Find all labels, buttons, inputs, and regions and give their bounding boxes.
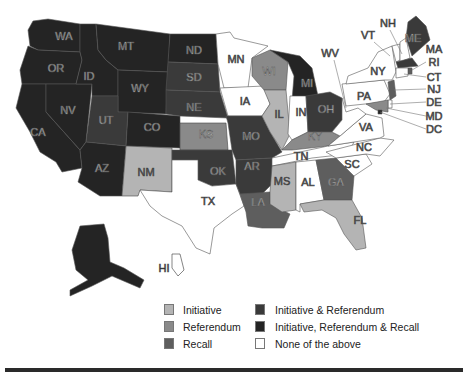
label-WY: WY <box>131 82 149 94</box>
label-AR: AR <box>244 160 259 172</box>
label-ND: ND <box>186 44 202 56</box>
label-UT: UT <box>99 114 114 126</box>
legend-label: Initiative, Referendum & Recall <box>275 321 419 333</box>
label-KY: KY <box>308 130 323 142</box>
swatch-none <box>255 338 265 349</box>
label-TX: TX <box>201 195 216 207</box>
label-HI: HI <box>159 262 170 274</box>
legend-label: Recall <box>183 338 212 350</box>
label-MT: MT <box>118 40 134 52</box>
label-LA: LA <box>251 196 265 208</box>
label-NC: NC <box>356 141 372 153</box>
label-DC: DC <box>426 123 442 135</box>
label-MS: MS <box>274 175 291 187</box>
label-MI: MI <box>301 77 313 89</box>
swatch-initiative-referendum <box>255 304 265 315</box>
label-VT: VT <box>361 29 375 41</box>
label-WV: WV <box>321 47 339 59</box>
legend-label: Referendum <box>183 321 241 333</box>
state-MS <box>270 162 296 212</box>
label-SD: SD <box>186 71 201 83</box>
label-OR: OR <box>48 62 65 74</box>
state-AK <box>70 224 144 296</box>
label-AL: AL <box>301 176 314 188</box>
label-SC: SC <box>344 158 359 170</box>
label-OH: OH <box>318 103 335 115</box>
swatch-initiative-referendum-recall <box>255 321 265 332</box>
label-DE: DE <box>426 96 441 108</box>
label-NV: NV <box>60 104 76 116</box>
label-VA: VA <box>359 121 374 133</box>
label-CT: CT <box>427 71 442 83</box>
label-CA: CA <box>30 126 46 138</box>
legend-label: Initiative <box>183 304 222 316</box>
state-HI <box>172 254 184 276</box>
label-NM: NM <box>137 166 154 178</box>
label-CO: CO <box>144 121 161 133</box>
label-RI: RI <box>429 56 440 68</box>
label-NE: NE <box>186 101 201 113</box>
label-NJ: NJ <box>427 83 440 95</box>
state-RI <box>408 68 412 74</box>
label-MN: MN <box>227 53 244 65</box>
state-CT <box>396 68 408 78</box>
label-TN: TN <box>294 150 309 162</box>
label-MA: MA <box>426 43 443 55</box>
label-NH: NH <box>380 17 396 29</box>
label-IA: IA <box>240 95 251 107</box>
label-WA: WA <box>55 30 73 42</box>
swatch-referendum <box>164 321 174 332</box>
legend-label: Initiative & Referendum <box>275 304 384 316</box>
swatch-recall <box>164 338 174 349</box>
label-IN: IN <box>296 106 307 118</box>
label-MO: MO <box>242 130 260 142</box>
bottom-rule <box>5 368 463 372</box>
label-NY: NY <box>370 65 386 77</box>
label-PA: PA <box>357 90 372 102</box>
label-FL: FL <box>354 214 367 226</box>
label-AZ: AZ <box>95 162 109 174</box>
label-ID: ID <box>84 70 95 82</box>
swatch-initiative <box>164 304 174 315</box>
label-WI: WI <box>262 65 275 77</box>
label-ME: ME <box>405 32 422 44</box>
legend-label: None of the above <box>275 338 361 350</box>
label-IL: IL <box>274 108 283 120</box>
label-KS: KS <box>199 128 214 140</box>
label-OK: OK <box>210 165 227 177</box>
label-GA: GA <box>328 176 345 188</box>
label-MD: MD <box>425 110 442 122</box>
